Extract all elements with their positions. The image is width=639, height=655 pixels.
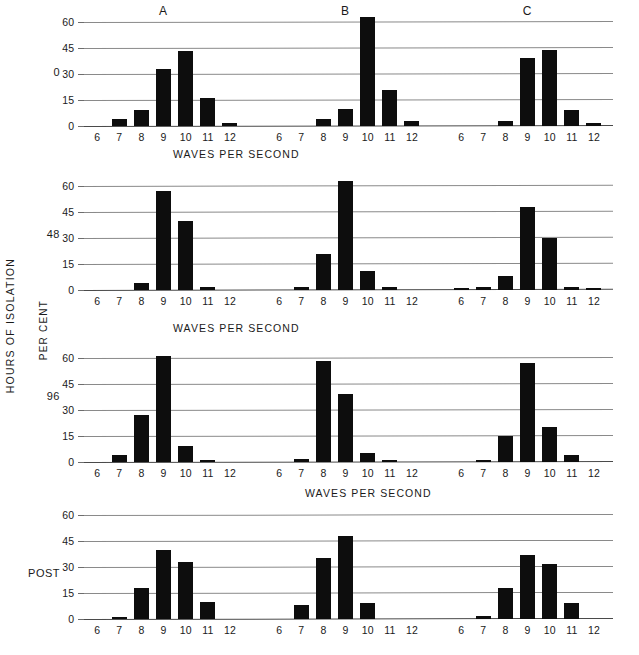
bar: [316, 558, 331, 619]
x-tick-label: 7: [116, 467, 122, 479]
bar: [382, 90, 397, 126]
bar: [156, 191, 171, 290]
x-tick-label: 11: [566, 624, 577, 636]
x-tick-label: 9: [161, 131, 167, 143]
y-tick-label: 45: [52, 378, 74, 390]
group-title-c: C: [450, 4, 605, 18]
bar: [338, 109, 353, 126]
x-tick-label: 10: [180, 295, 192, 307]
bar: [222, 123, 237, 126]
bar: [476, 460, 491, 462]
bar: [404, 121, 419, 126]
per-cent-axis-label: PER CENT: [38, 300, 49, 360]
group-title-a: A: [86, 4, 241, 18]
y-tick-label: 60: [52, 180, 74, 192]
x-tick-label: 9: [525, 295, 531, 307]
bar: [294, 287, 309, 290]
x-tick-label: 8: [320, 624, 326, 636]
x-tick-label: 6: [458, 131, 464, 143]
x-tick-label: 10: [362, 467, 374, 479]
x-tick-label: 9: [343, 467, 349, 479]
x-tick-label: 9: [343, 295, 349, 307]
bar: [178, 51, 193, 126]
x-tick-label: 7: [298, 624, 304, 636]
x-tick-label: 9: [343, 624, 349, 636]
x-tick-label: 9: [525, 624, 531, 636]
bar: [542, 238, 557, 290]
bar: [498, 276, 513, 290]
x-tick-label: 12: [224, 131, 236, 143]
x-tick-label: 9: [161, 624, 167, 636]
x-tick-label: 7: [480, 467, 486, 479]
bar: [338, 536, 353, 619]
bar: [476, 287, 491, 290]
bar: [564, 455, 579, 462]
y-tick-label: 45: [52, 535, 74, 547]
x-tick-label: 6: [458, 624, 464, 636]
bar: [498, 436, 513, 462]
bar: [382, 287, 397, 290]
bar: [520, 58, 535, 126]
x-tick-label: 8: [138, 131, 144, 143]
x-tick-label: 11: [202, 295, 213, 307]
y-tick-label: 60: [52, 352, 74, 364]
x-tick-label: 11: [566, 131, 577, 143]
bar: [156, 69, 171, 126]
gridline: [84, 47, 613, 49]
x-tick-label: 7: [298, 467, 304, 479]
y-tick-label: 30: [52, 404, 74, 416]
bar: [338, 394, 353, 462]
bar: [178, 562, 193, 619]
bar: [338, 181, 353, 290]
bar: [112, 617, 127, 619]
bar: [498, 121, 513, 126]
x-tick-label: 7: [298, 131, 304, 143]
x-tick-label: 12: [406, 467, 418, 479]
x-tick-label: 6: [94, 295, 100, 307]
bar: [542, 427, 557, 462]
bar: [360, 17, 375, 126]
x-tick-label: 11: [566, 295, 577, 307]
bar: [112, 455, 127, 462]
x-tick-label: 12: [588, 624, 600, 636]
x-tick-label: 7: [116, 295, 122, 307]
bar: [586, 123, 601, 126]
x-tick-label: 6: [458, 467, 464, 479]
x-tick-label: 7: [116, 624, 122, 636]
x-tick-label: 10: [180, 131, 192, 143]
x-tick-label: 12: [588, 467, 600, 479]
x-tick-label: 7: [480, 295, 486, 307]
gridline: [84, 21, 613, 23]
x-tick-label: 8: [320, 467, 326, 479]
x-tick-label: 10: [362, 624, 374, 636]
x-tick-label: 11: [384, 295, 395, 307]
bar: [134, 588, 149, 619]
x-tick-label: 7: [298, 295, 304, 307]
bar: [382, 460, 397, 462]
bar: [586, 288, 601, 290]
x-axis-title: WAVES PER SECOND: [305, 487, 432, 499]
x-tick-label: 11: [384, 131, 395, 143]
x-tick-label: 10: [544, 131, 556, 143]
y-tick-label: 30: [52, 232, 74, 244]
x-tick-label: 12: [224, 624, 236, 636]
x-tick-label: 9: [343, 131, 349, 143]
y-tick-label: 0: [52, 456, 74, 468]
bar: [564, 110, 579, 126]
y-tick-label: 45: [52, 206, 74, 218]
x-tick-label: 6: [94, 624, 100, 636]
y-tick-label: 15: [52, 587, 74, 599]
bar: [520, 363, 535, 462]
x-tick-label: 6: [458, 295, 464, 307]
x-tick-label: 9: [525, 467, 531, 479]
y-tick-label: 45: [52, 42, 74, 54]
bar: [200, 460, 215, 462]
x-tick-label: 10: [180, 467, 192, 479]
bar: [520, 207, 535, 290]
x-tick-label: 10: [544, 624, 556, 636]
x-tick-label: 10: [544, 295, 556, 307]
x-tick-label: 6: [276, 467, 282, 479]
bar: [156, 550, 171, 619]
x-tick-label: 9: [161, 467, 167, 479]
x-tick-label: 6: [276, 131, 282, 143]
